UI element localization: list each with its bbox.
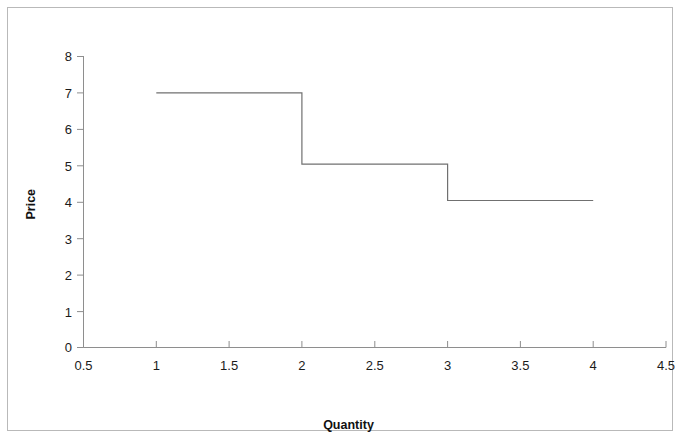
y-tick-marks	[77, 57, 84, 348]
x-axis-title: Quantity	[8, 419, 681, 432]
y-tick-label-7: 7	[50, 87, 72, 100]
chart-frame: 8 7 6 5 4 3 2 1 0 0.5 1 1.5 2 2.5 3 3.5 …	[7, 7, 673, 431]
x-tick-label-3: 3	[428, 359, 468, 372]
y-tick-label-8: 8	[50, 50, 72, 63]
step-series-line	[156, 93, 593, 201]
x-tick-label-4: 4	[573, 359, 613, 372]
x-tick-label-2-5: 2.5	[355, 359, 395, 372]
y-axis-title: Price	[25, 174, 38, 234]
x-tick-marks	[84, 341, 667, 348]
x-tick-label-4-5: 4.5	[646, 359, 681, 372]
y-tick-label-5: 5	[50, 160, 72, 173]
plot-area	[8, 8, 681, 441]
x-tick-label-2: 2	[282, 359, 322, 372]
y-tick-label-2: 2	[50, 269, 72, 282]
y-tick-label-3: 3	[50, 233, 72, 246]
y-tick-label-0: 0	[50, 341, 72, 354]
y-tick-label-4: 4	[50, 196, 72, 209]
x-tick-label-1: 1	[136, 359, 176, 372]
x-tick-label-1-5: 1.5	[209, 359, 249, 372]
y-tick-label-1: 1	[50, 306, 72, 319]
x-tick-label-0-5: 0.5	[64, 359, 104, 372]
y-tick-label-6: 6	[50, 123, 72, 136]
x-tick-label-3-5: 3.5	[500, 359, 540, 372]
